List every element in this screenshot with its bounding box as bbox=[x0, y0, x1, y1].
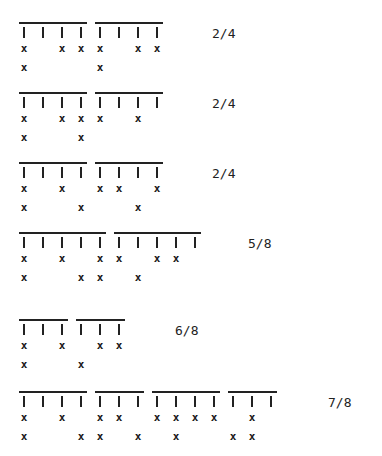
pulse-tick bbox=[137, 97, 139, 108]
beat-group-beam bbox=[19, 319, 68, 321]
upper-onset-mark: x bbox=[154, 412, 161, 423]
pulse-tick bbox=[156, 97, 158, 108]
lower-onset-mark: x bbox=[21, 62, 28, 73]
lower-onset-mark: x bbox=[21, 272, 28, 283]
upper-onset-mark: x bbox=[116, 340, 123, 351]
meter-label: 2/4 bbox=[212, 26, 235, 41]
lower-onset-mark: x bbox=[97, 62, 104, 73]
pulse-tick bbox=[23, 97, 25, 108]
upper-onset-mark: x bbox=[59, 340, 66, 351]
pulse-tick bbox=[118, 167, 120, 178]
pulse-tick bbox=[61, 27, 63, 38]
lower-onset-mark: x bbox=[249, 431, 256, 442]
pulse-tick bbox=[23, 167, 25, 178]
meter-label: 7/8 bbox=[328, 395, 351, 410]
upper-onset-mark: x bbox=[173, 412, 180, 423]
pulse-tick bbox=[156, 237, 158, 248]
lower-onset-mark: x bbox=[21, 132, 28, 143]
upper-onset-mark: x bbox=[192, 412, 199, 423]
pulse-tick bbox=[194, 396, 196, 407]
upper-onset-mark: x bbox=[21, 183, 28, 194]
pulse-tick bbox=[194, 237, 196, 248]
lower-onset-mark: x bbox=[78, 132, 85, 143]
beat-group-beam bbox=[95, 391, 144, 393]
lower-onset-mark: x bbox=[78, 202, 85, 213]
pulse-tick bbox=[99, 237, 101, 248]
upper-onset-mark: x bbox=[21, 340, 28, 351]
beat-group-beam bbox=[152, 391, 220, 393]
upper-onset-mark: x bbox=[78, 43, 85, 54]
lower-onset-mark: x bbox=[135, 202, 142, 213]
pulse-tick bbox=[232, 396, 234, 407]
lower-onset-mark: x bbox=[135, 431, 142, 442]
lower-onset-mark: x bbox=[21, 202, 28, 213]
upper-onset-mark: x bbox=[21, 412, 28, 423]
pulse-tick bbox=[42, 237, 44, 248]
lower-onset-mark: x bbox=[97, 272, 104, 283]
upper-onset-mark: x bbox=[97, 412, 104, 423]
pulse-tick bbox=[42, 97, 44, 108]
rhythm-row: xxxxxxxx bbox=[0, 22, 382, 92]
pulse-tick bbox=[23, 324, 25, 335]
pulse-tick bbox=[118, 97, 120, 108]
pulse-tick bbox=[80, 396, 82, 407]
pulse-tick bbox=[99, 97, 101, 108]
beat-group-beam bbox=[19, 22, 87, 24]
upper-onset-mark: x bbox=[116, 412, 123, 423]
upper-onset-mark: x bbox=[97, 113, 104, 124]
upper-onset-mark: x bbox=[135, 43, 142, 54]
pulse-tick bbox=[118, 27, 120, 38]
lower-onset-mark: x bbox=[230, 431, 237, 442]
upper-onset-mark: x bbox=[211, 412, 218, 423]
beat-group-beam bbox=[114, 232, 201, 234]
upper-onset-mark: x bbox=[154, 183, 161, 194]
upper-onset-mark: x bbox=[97, 183, 104, 194]
lower-onset-mark: x bbox=[97, 431, 104, 442]
pulse-tick bbox=[23, 237, 25, 248]
pulse-tick bbox=[156, 396, 158, 407]
pulse-tick bbox=[156, 167, 158, 178]
pulse-tick bbox=[23, 396, 25, 407]
meter-label: 6/8 bbox=[175, 323, 198, 338]
beat-group-beam bbox=[76, 319, 125, 321]
upper-onset-mark: x bbox=[59, 113, 66, 124]
beat-group-beam bbox=[95, 162, 163, 164]
lower-onset-mark: x bbox=[21, 431, 28, 442]
pulse-tick bbox=[80, 27, 82, 38]
upper-onset-mark: x bbox=[116, 183, 123, 194]
upper-onset-mark: x bbox=[97, 253, 104, 264]
rhythm-row: xxxxxxxxxx bbox=[0, 232, 382, 302]
pulse-tick bbox=[118, 324, 120, 335]
pulse-tick bbox=[99, 396, 101, 407]
pulse-tick bbox=[61, 167, 63, 178]
lower-onset-mark: x bbox=[78, 359, 85, 370]
pulse-tick bbox=[99, 324, 101, 335]
pulse-tick bbox=[118, 396, 120, 407]
upper-onset-mark: x bbox=[97, 43, 104, 54]
upper-onset-mark: x bbox=[135, 113, 142, 124]
beat-group-beam bbox=[95, 22, 163, 24]
beat-group-beam bbox=[19, 391, 87, 393]
upper-onset-mark: x bbox=[78, 113, 85, 124]
upper-onset-mark: x bbox=[173, 253, 180, 264]
upper-onset-mark: x bbox=[59, 183, 66, 194]
pulse-tick bbox=[61, 324, 63, 335]
upper-onset-mark: x bbox=[154, 253, 161, 264]
meter-label: 2/4 bbox=[212, 166, 235, 181]
pulse-tick bbox=[61, 396, 63, 407]
pulse-tick bbox=[80, 97, 82, 108]
pulse-tick bbox=[42, 396, 44, 407]
pulse-tick bbox=[42, 324, 44, 335]
pulse-tick bbox=[80, 167, 82, 178]
pulse-tick bbox=[118, 237, 120, 248]
pulse-tick bbox=[175, 237, 177, 248]
beat-group-beam bbox=[19, 92, 87, 94]
pulse-tick bbox=[61, 97, 63, 108]
upper-onset-mark: x bbox=[116, 253, 123, 264]
upper-onset-mark: x bbox=[59, 412, 66, 423]
rhythm-row: xxxxxxx bbox=[0, 92, 382, 162]
pulse-tick bbox=[99, 167, 101, 178]
beat-group-beam bbox=[95, 92, 163, 94]
lower-onset-mark: x bbox=[78, 272, 85, 283]
pulse-tick bbox=[80, 324, 82, 335]
